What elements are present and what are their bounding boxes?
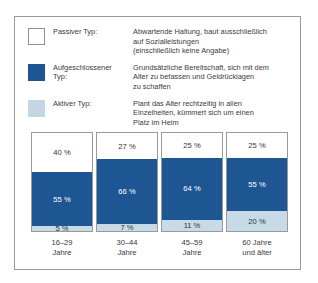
bar-segment: 5 %	[32, 226, 92, 231]
legend-item-passiver-typ: Passiver Typ: Abwartende Haltung, baut a…	[15, 27, 302, 56]
stacked-bar-chart: 40 %55 %5 %16–29Jahre27 %66 %7 %30–44Jah…	[15, 132, 302, 269]
category-label: 60 Jahreund älter	[242, 238, 272, 258]
figure-frame: Passiver Typ: Abwartende Haltung, baut a…	[14, 16, 301, 270]
legend-term-line: Passiver Typ:	[53, 27, 129, 37]
category-label: 30–44Jahre	[116, 238, 137, 258]
legend: Passiver Typ: Abwartende Haltung, baut a…	[15, 17, 302, 134]
legend-desc-line: Platz im Heim	[133, 118, 302, 128]
bar-column: 25 %64 %11 %45–59Jahre	[161, 132, 223, 261]
legend-desc-aktiver-typ: Plant das Alter rechtzeitig in allen Ein…	[133, 99, 302, 128]
category-label-line: Jahre	[181, 248, 202, 258]
stacked-bar: 25 %64 %11 %	[161, 132, 223, 232]
bar-segment: 25 %	[227, 133, 287, 158]
stacked-bar: 27 %66 %7 %	[96, 132, 158, 232]
legend-term-line: Typ:	[53, 72, 129, 82]
bar-segment: 20 %	[227, 211, 287, 231]
category-label-line: 45–59	[181, 238, 202, 248]
legend-item-aufgeschlossener-typ: Aufgeschlossener Typ: Grundsätzliche Ber…	[15, 63, 302, 92]
legend-swatch-aufgeschlossener-typ	[28, 64, 45, 81]
category-label: 45–59Jahre	[181, 238, 202, 258]
legend-desc-line: Grundsätzliche Bereitschaft, sich mit de…	[133, 63, 302, 73]
category-label-line: und älter	[242, 248, 272, 258]
bar-segment: 64 %	[162, 158, 222, 221]
bar-column: 40 %55 %5 %16–29Jahre	[31, 132, 93, 261]
legend-desc-line: Plant das Alter rechtzeitig in allen	[133, 99, 302, 109]
bar-column: 25 %55 %20 %60 Jahreund älter	[226, 132, 288, 261]
category-label-line: 60 Jahre	[242, 238, 272, 248]
legend-term-line: Aufgeschlossener	[53, 63, 129, 73]
legend-term-passiver-typ: Passiver Typ:	[53, 27, 129, 37]
bar-segment: 11 %	[162, 220, 222, 231]
legend-desc-line: (einschließlich keine Angabe)	[133, 46, 302, 56]
legend-desc-line: auf Sozialleistungen	[133, 37, 302, 47]
bar-segment: 27 %	[97, 133, 157, 159]
bar-segment: 25 %	[162, 133, 222, 158]
legend-desc-aufgeschlossener-typ: Grundsätzliche Bereitschaft, sich mit de…	[133, 63, 302, 92]
legend-swatch-passiver-typ	[28, 28, 45, 45]
legend-desc-line: Alter zu befassen und Geldrücklagen	[133, 72, 302, 82]
legend-item-aktiver-typ: Aktiver Typ: Plant das Alter rechtzeitig…	[15, 99, 302, 128]
bar-segment: 7 %	[97, 224, 157, 231]
category-label-line: Jahre	[116, 248, 137, 258]
legend-term-aufgeschlossener-typ: Aufgeschlossener Typ:	[53, 63, 129, 82]
bar-segment: 40 %	[32, 133, 92, 172]
legend-desc-line: zu schaffen	[133, 82, 302, 92]
stacked-bar: 25 %55 %20 %	[226, 132, 288, 232]
bar-column: 27 %66 %7 %30–44Jahre	[96, 132, 158, 261]
legend-desc-passiver-typ: Abwartende Haltung, baut ausschließlich …	[133, 27, 302, 56]
category-label-line: 16–29	[51, 238, 72, 248]
legend-swatch-aktiver-typ	[28, 100, 45, 117]
legend-desc-line: Abwartende Haltung, baut ausschließlich	[133, 27, 302, 37]
stacked-bar: 40 %55 %5 %	[31, 132, 93, 232]
bar-segment: 55 %	[32, 172, 92, 226]
legend-desc-line: Einzelheiten, kümmert sich um einen	[133, 108, 302, 118]
category-label-line: Jahre	[51, 248, 72, 258]
category-label-line: 30–44	[116, 238, 137, 248]
bar-segment: 55 %	[227, 158, 287, 212]
bar-segment: 66 %	[97, 159, 157, 224]
legend-term-line: Aktiver Typ:	[53, 99, 129, 109]
legend-term-aktiver-typ: Aktiver Typ:	[53, 99, 129, 109]
category-label: 16–29Jahre	[51, 238, 72, 258]
